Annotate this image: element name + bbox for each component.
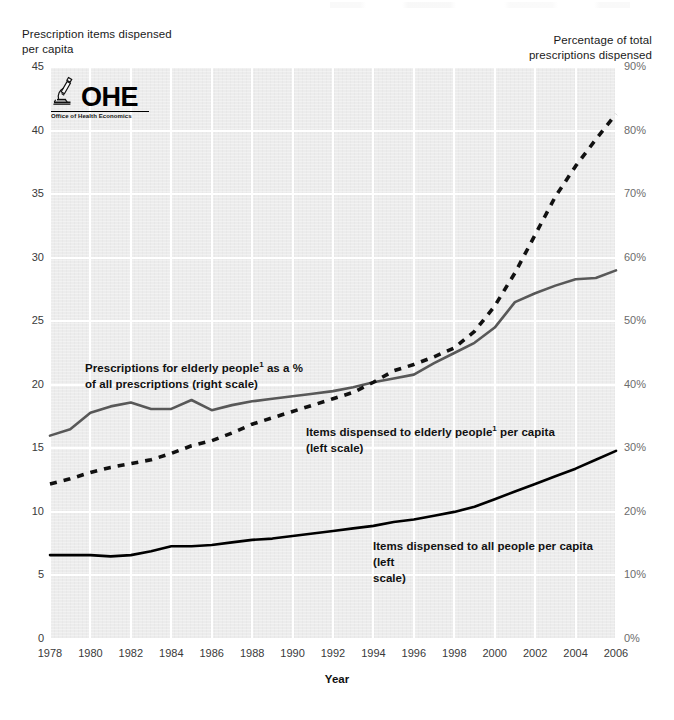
left-axis-tick-label: 30 [14,251,44,263]
x-axis-tick-label: 2006 [596,647,636,659]
annotation-line: (left scale) [306,440,576,456]
annotation-line: Prescriptions for elderly people1 as a % [85,360,365,376]
right-axis-tick-label: 30% [624,441,668,453]
x-axis-title: Year [0,673,674,685]
x-axis-tick-label: 2000 [475,647,515,659]
left-axis-tick-label: 15 [14,441,44,453]
annotation-all-items: Items dispensed to all people per capita… [373,538,608,586]
annotation-line: of all prescriptions (right scale) [85,376,365,392]
left-axis-tick-label: 5 [14,568,44,580]
right-axis-title: Percentage of totalprescriptions dispens… [422,33,652,63]
annotation-line: Items dispensed to all people per capita… [373,538,608,570]
x-axis-tick-label: 1984 [151,647,191,659]
right-axis-tick-label: 70% [624,187,668,199]
left-axis-tick-label: 40 [14,124,44,136]
annotation-elderly-percentage: Prescriptions for elderly people1 as a %… [85,360,365,392]
left-axis-title: Prescription items dispensedper capita [22,27,252,57]
x-axis-tick-label: 1988 [232,647,272,659]
axis-title-line: Prescription items dispensed [22,28,172,40]
right-axis-tick-label: 90% [624,60,668,72]
series-line-right-solid [50,270,616,435]
annotation-text: Items dispensed to elderly people [306,426,492,438]
left-axis-tick-label: 35 [14,187,44,199]
left-axis-tick-label: 25 [14,314,44,326]
right-axis-tick-label: 10% [624,568,668,580]
annotation-text: per capita [497,426,555,438]
right-axis-tick-label: 20% [624,505,668,517]
annotation-text: as a % [264,362,303,374]
x-axis-tick-label: 1980 [70,647,110,659]
left-axis-tick-label: 45 [14,60,44,72]
annotation-text: Items dispensed to all people per capita… [373,540,593,568]
left-axis-tick-label: 10 [14,505,44,517]
x-axis-tick-label: 1998 [434,647,474,659]
annotation-line: Items dispensed to elderly people1 per c… [306,424,576,440]
cropped-header-artifact [330,2,630,8]
annotation-line: scale) [373,570,608,586]
x-axis-tick-label: 1982 [111,647,151,659]
annotation-elderly-items: Items dispensed to elderly people1 per c… [306,424,576,456]
right-axis-tick-label: 80% [624,124,668,136]
axis-title-line: Percentage of total [554,34,652,46]
right-axis-tick-label: 60% [624,251,668,263]
ohe-logo-text: OHE [81,83,138,111]
ohe-logo-subtitle: Office of Health Economics [51,111,149,119]
x-axis-tick-label: 1994 [353,647,393,659]
x-axis-tick-label: 1986 [192,647,232,659]
x-axis-tick-label: 1978 [30,647,70,659]
left-axis-tick-label: 0 [14,632,44,644]
microscope-icon [51,75,81,111]
x-axis-tick-label: 2002 [515,647,555,659]
x-axis-tick-label: 2004 [556,647,596,659]
right-axis-tick-label: 50% [624,314,668,326]
x-axis-tick-label: 1990 [273,647,313,659]
annotation-text: Prescriptions for elderly people [85,362,259,374]
right-axis-tick-label: 40% [624,378,668,390]
chart-figure: Prescription items dispensedper capita P… [0,0,674,720]
axis-title-line: per capita [22,43,74,55]
x-axis-tick-label: 1992 [313,647,353,659]
left-axis-tick-label: 20 [14,378,44,390]
right-axis-tick-label: 0% [624,632,668,644]
plot-area: OHE Office of Health Economics Prescript… [50,67,616,639]
ohe-logo: OHE Office of Health Economics [51,79,151,121]
x-axis-tick-label: 1996 [394,647,434,659]
